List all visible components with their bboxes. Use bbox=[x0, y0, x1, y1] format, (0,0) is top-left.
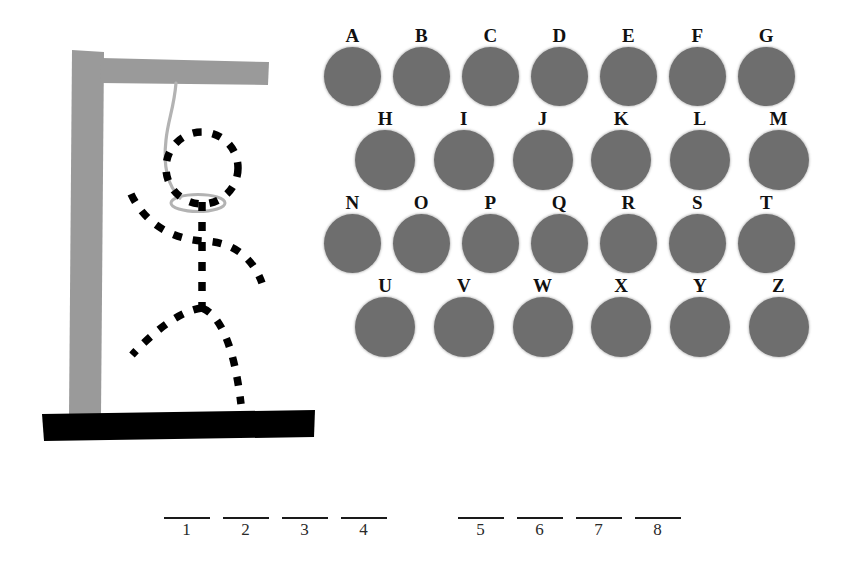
letter-key-q[interactable]: Q bbox=[525, 193, 594, 273]
letter-key-label: R bbox=[621, 193, 635, 213]
letter-key-j[interactable]: J bbox=[503, 109, 582, 190]
letter-key-disc[interactable] bbox=[355, 130, 415, 190]
letter-key-h[interactable]: H bbox=[346, 109, 425, 190]
letter-key-label: T bbox=[760, 193, 773, 213]
letter-key-n[interactable]: N bbox=[318, 193, 387, 273]
letter-key-label: J bbox=[538, 109, 548, 129]
letter-key-disc[interactable] bbox=[462, 214, 519, 273]
blank-index: 5 bbox=[476, 520, 485, 539]
letter-key-disc[interactable] bbox=[591, 130, 651, 190]
answer-word-2: 5 6 7 8 bbox=[455, 500, 683, 539]
blank-slot[interactable]: 8 bbox=[632, 500, 683, 539]
letter-key-u[interactable]: U bbox=[346, 276, 425, 357]
letter-key-disc[interactable] bbox=[738, 47, 795, 106]
letter-key-label: P bbox=[484, 193, 496, 213]
letter-key-label: H bbox=[378, 109, 393, 129]
letter-key-p[interactable]: P bbox=[456, 193, 525, 273]
letter-key-disc[interactable] bbox=[749, 297, 809, 357]
keyboard-row-2: H I J K L M bbox=[346, 109, 818, 190]
answer-word-1: 1 2 3 4 bbox=[161, 500, 389, 539]
letter-key-label: Q bbox=[552, 193, 567, 213]
letter-key-i[interactable]: I bbox=[425, 109, 504, 190]
letter-key-disc[interactable] bbox=[513, 130, 573, 190]
letter-key-label: D bbox=[552, 26, 566, 46]
letter-key-e[interactable]: E bbox=[594, 26, 663, 106]
letter-key-disc[interactable] bbox=[591, 297, 651, 357]
blank-slot[interactable]: 3 bbox=[279, 500, 330, 539]
letter-key-disc[interactable] bbox=[513, 297, 573, 357]
letter-key-label: K bbox=[614, 109, 629, 129]
letter-key-s[interactable]: S bbox=[663, 193, 732, 273]
keyboard-row-4: U V W X Y Z bbox=[346, 276, 818, 357]
letter-key-f[interactable]: F bbox=[663, 26, 732, 106]
letter-key-a[interactable]: A bbox=[318, 26, 387, 106]
letter-key-disc[interactable] bbox=[670, 297, 730, 357]
letter-key-w[interactable]: W bbox=[503, 276, 582, 357]
letter-key-disc[interactable] bbox=[670, 130, 730, 190]
letter-key-label: C bbox=[483, 26, 497, 46]
blank-slot[interactable]: 5 bbox=[455, 500, 506, 539]
letter-key-y[interactable]: Y bbox=[661, 276, 740, 357]
hangman-game: A B C D E F G bbox=[0, 0, 844, 585]
letter-key-b[interactable]: B bbox=[387, 26, 456, 106]
letter-key-disc[interactable] bbox=[669, 47, 726, 106]
letter-key-g[interactable]: G bbox=[732, 26, 801, 106]
keyboard-row-1: A B C D E F G bbox=[318, 26, 818, 106]
blank-rule bbox=[458, 517, 504, 519]
letter-key-disc[interactable] bbox=[669, 214, 726, 273]
letter-key-label: I bbox=[460, 109, 468, 129]
blank-slot[interactable]: 6 bbox=[514, 500, 565, 539]
blank-index: 4 bbox=[359, 520, 368, 539]
letter-key-disc[interactable] bbox=[738, 214, 795, 273]
blank-index: 2 bbox=[241, 520, 250, 539]
blank-slot[interactable]: 7 bbox=[573, 500, 624, 539]
letter-key-label: Y bbox=[693, 276, 707, 296]
blank-index: 6 bbox=[535, 520, 544, 539]
letter-key-disc[interactable] bbox=[531, 214, 588, 273]
letter-key-r[interactable]: R bbox=[594, 193, 663, 273]
letter-key-label: S bbox=[692, 193, 703, 213]
letter-key-label: O bbox=[414, 193, 429, 213]
keyboard-row-3: N O P Q R S T bbox=[318, 193, 818, 273]
letter-key-disc[interactable] bbox=[749, 130, 809, 190]
letter-key-disc[interactable] bbox=[355, 297, 415, 357]
blank-slot[interactable]: 4 bbox=[338, 500, 389, 539]
figure-head bbox=[166, 132, 238, 204]
letter-key-m[interactable]: M bbox=[739, 109, 818, 190]
letter-key-disc[interactable] bbox=[434, 297, 494, 357]
blank-index: 7 bbox=[594, 520, 603, 539]
letter-key-disc[interactable] bbox=[462, 47, 519, 106]
blank-rule bbox=[635, 517, 681, 519]
letter-key-c[interactable]: C bbox=[456, 26, 525, 106]
letter-key-disc[interactable] bbox=[434, 130, 494, 190]
blank-slot[interactable]: 1 bbox=[161, 500, 212, 539]
letter-key-label: E bbox=[622, 26, 635, 46]
letter-key-label: B bbox=[415, 26, 428, 46]
letter-key-disc[interactable] bbox=[324, 214, 381, 273]
letter-key-label: U bbox=[378, 276, 392, 296]
gallows-panel bbox=[0, 0, 330, 460]
blank-index: 1 bbox=[182, 520, 191, 539]
blank-slot[interactable]: 2 bbox=[220, 500, 271, 539]
letter-key-o[interactable]: O bbox=[387, 193, 456, 273]
letter-key-x[interactable]: X bbox=[582, 276, 661, 357]
letter-key-t[interactable]: T bbox=[732, 193, 801, 273]
hangman-figure-icon bbox=[0, 0, 330, 460]
letter-key-v[interactable]: V bbox=[425, 276, 504, 357]
letter-key-disc[interactable] bbox=[324, 47, 381, 106]
letter-key-l[interactable]: L bbox=[661, 109, 740, 190]
blank-rule bbox=[517, 517, 563, 519]
letter-key-z[interactable]: Z bbox=[739, 276, 818, 357]
letter-key-disc[interactable] bbox=[600, 47, 657, 106]
figure-left-leg bbox=[132, 308, 202, 355]
blank-rule bbox=[164, 517, 210, 519]
letter-key-disc[interactable] bbox=[393, 47, 450, 106]
letter-key-d[interactable]: D bbox=[525, 26, 594, 106]
blank-rule bbox=[576, 517, 622, 519]
letter-key-k[interactable]: K bbox=[582, 109, 661, 190]
letter-key-disc[interactable] bbox=[531, 47, 588, 106]
letter-key-disc[interactable] bbox=[600, 214, 657, 273]
blank-rule bbox=[223, 517, 269, 519]
letter-key-disc[interactable] bbox=[393, 214, 450, 273]
answer-blanks: 1 2 3 4 5 bbox=[0, 500, 844, 539]
